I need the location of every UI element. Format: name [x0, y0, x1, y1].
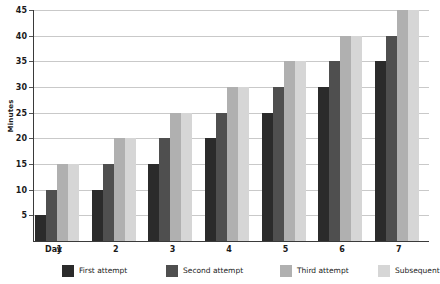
bar [216, 113, 227, 241]
bar [408, 10, 419, 241]
bar [375, 61, 386, 241]
bar [125, 138, 136, 241]
y-axis-tick-label: 15 [16, 160, 27, 169]
x-axis-tick-label: 3 [170, 245, 176, 254]
bar-group-day-3 [148, 10, 192, 241]
bar-group-day-4 [205, 10, 249, 241]
bar [351, 36, 362, 241]
y-axis-tick-label: 25 [16, 108, 27, 117]
bar-group-day-7 [375, 10, 419, 241]
bar [114, 138, 125, 241]
bar [205, 138, 216, 241]
legend-item-subsequent[interactable]: Subsequent [378, 264, 440, 277]
bar [262, 113, 273, 241]
y-axis-tick-label: 30 [16, 83, 27, 92]
bar [103, 164, 114, 241]
legend-label: Subsequent [395, 266, 440, 275]
bar [148, 164, 159, 241]
bar-group-day-1 [35, 10, 79, 241]
bars-layer [33, 10, 429, 241]
bar-group-day-5 [262, 10, 306, 241]
bar [340, 36, 351, 241]
plot-area: 51015202530354045 [33, 10, 429, 241]
x-axis-tick-label: 6 [339, 245, 345, 254]
bar [181, 113, 192, 241]
bar [92, 190, 103, 241]
y-axis-tick-label: 35 [16, 57, 27, 66]
y-axis-tick-label: 20 [16, 134, 27, 143]
bar [57, 164, 68, 241]
chart-title [150, 0, 380, 2]
bar [284, 61, 295, 241]
bar [35, 215, 46, 241]
x-axis-tick-label: 2 [113, 245, 119, 254]
legend-item-third-attempt[interactable]: Third attempt [280, 264, 349, 277]
legend-item-first-attempt[interactable]: First attempt [62, 264, 127, 277]
legend-label: Third attempt [297, 266, 349, 275]
bar [295, 61, 306, 241]
bar [227, 87, 238, 241]
bar [397, 10, 408, 241]
legend-swatch [280, 265, 292, 277]
bar [329, 61, 340, 241]
bar [238, 87, 249, 241]
legend-swatch [62, 265, 74, 277]
x-axis-tick-label: 7 [396, 245, 402, 254]
bar [273, 87, 284, 241]
chart-legend: First attemptSecond attemptThird attempt… [62, 264, 435, 278]
bar-group-day-6 [318, 10, 362, 241]
x-axis-tick-label: 4 [226, 245, 232, 254]
bar [46, 190, 57, 241]
legend-swatch [378, 265, 390, 277]
bar [318, 87, 329, 241]
bar [159, 138, 170, 241]
y-axis-tick-label: 45 [16, 6, 27, 15]
bar [386, 36, 397, 241]
y-axis-tick-label: 40 [16, 31, 27, 40]
bar [170, 113, 181, 241]
legend-item-second-attempt[interactable]: Second attempt [166, 264, 243, 277]
y-axis-title: Minutes [7, 86, 15, 146]
x-axis-tick-label: 1 [56, 245, 62, 254]
y-axis-tick-label: 10 [16, 185, 27, 194]
legend-label: First attempt [79, 266, 127, 275]
bar [68, 164, 79, 241]
x-axis-line [33, 241, 429, 242]
y-axis-tick-label: 5 [21, 211, 27, 220]
legend-swatch [166, 265, 178, 277]
y-axis-line [33, 10, 34, 242]
x-axis-tick-label: 5 [283, 245, 289, 254]
bar-group-day-2 [92, 10, 136, 241]
legend-label: Second attempt [183, 266, 243, 275]
